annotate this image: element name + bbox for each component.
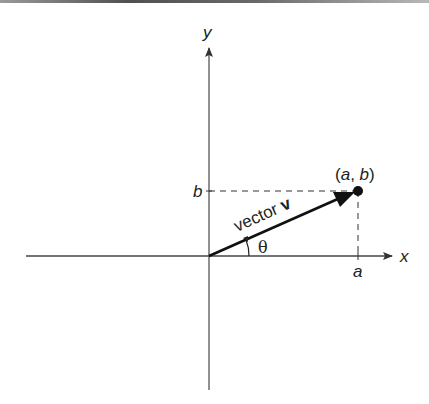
x-axis-label: x: [399, 247, 409, 266]
vector-label: vector v: [231, 193, 294, 235]
angle-label-theta: θ: [258, 238, 268, 257]
y-axis-label: y: [202, 23, 213, 42]
y-tick-label-b: b: [193, 182, 202, 201]
point-a-b: [353, 186, 363, 196]
vector-diagram: y x b a (a, b) vector v θ: [0, 0, 429, 404]
point-label: (a, b): [335, 165, 375, 184]
x-tick-label-a: a: [353, 262, 362, 281]
